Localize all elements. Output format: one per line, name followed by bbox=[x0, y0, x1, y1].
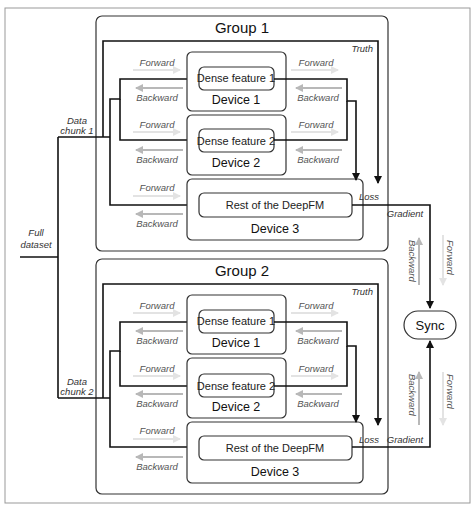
full-dataset-label-1: Full bbox=[28, 227, 44, 238]
data-chunk-2-label-2: chunk 2 bbox=[60, 386, 94, 397]
forward-label-g1-d2-right: Forward bbox=[299, 119, 335, 130]
loss-label-g2: Loss bbox=[359, 434, 379, 445]
sync-node: Sync bbox=[404, 311, 456, 339]
sync-forward-label-top: Forward bbox=[445, 240, 456, 276]
forward-label-g2-d3-left: Forward bbox=[140, 425, 176, 436]
truth-label-g2: Truth bbox=[352, 286, 373, 297]
backward-label-g2-d3-left: Backward bbox=[136, 461, 178, 472]
forward-label-g2-d2-left: Forward bbox=[140, 363, 176, 374]
backward-label-g2-d2-right: Backward bbox=[297, 398, 339, 409]
group-2: Group 2 Data chunk 2 Dense feature 1 Dev… bbox=[58, 259, 430, 494]
device-3-label-g1: Device 3 bbox=[251, 222, 300, 236]
loss-label-g1: Loss bbox=[359, 191, 379, 202]
forward-label-g1-d1-right: Forward bbox=[299, 57, 335, 68]
sync-forward-label-bottom: Forward bbox=[445, 374, 456, 410]
device-2-label-g1: Device 2 bbox=[212, 156, 261, 170]
backward-label-g2-d1-left: Backward bbox=[136, 335, 178, 346]
forward-label-g1-d3-left: Forward bbox=[140, 182, 176, 193]
rest-of-deepfm-label-g1: Rest of the DeepFM bbox=[226, 199, 324, 211]
dense-feature-2-label-g1: Dense feature 2 bbox=[197, 135, 275, 147]
backward-label-g1-d2-right: Backward bbox=[297, 154, 339, 165]
backward-label-g1-d1-right: Backward bbox=[297, 92, 339, 103]
forward-label-g2-d1-left: Forward bbox=[140, 300, 176, 311]
truth-label-g1: Truth bbox=[352, 43, 373, 54]
backward-label-g2-d1-right: Backward bbox=[297, 335, 339, 346]
forward-label-g1-d2-left: Forward bbox=[140, 119, 176, 130]
device-1-label-g2: Device 1 bbox=[212, 336, 261, 350]
device-3-label-g2: Device 3 bbox=[251, 465, 300, 479]
group-2-title: Group 2 bbox=[215, 262, 269, 279]
dense-feature-2-label-g2: Dense feature 2 bbox=[197, 380, 275, 392]
deepfm-data-parallel-diagram: Full dataset Group 1 Data chunk 1 Dense … bbox=[0, 0, 473, 510]
sync-backward-label-bottom: Backward bbox=[407, 374, 418, 416]
device-2-label-g2: Device 2 bbox=[212, 400, 261, 414]
backward-label-g1-d3-left: Backward bbox=[136, 218, 178, 229]
sync-label: Sync bbox=[416, 318, 445, 333]
forward-label-g2-d1-right: Forward bbox=[299, 300, 335, 311]
backward-label-g2-d2-left: Backward bbox=[136, 398, 178, 409]
sync-backward-label-top: Backward bbox=[407, 240, 418, 282]
device-1-label-g1: Device 1 bbox=[212, 93, 261, 107]
group-1-title: Group 1 bbox=[215, 19, 269, 36]
gradient-label-g1: Gradient bbox=[387, 208, 424, 219]
dense-feature-1-label-g2: Dense feature 1 bbox=[197, 315, 275, 327]
data-chunk-1-label-2: chunk 1 bbox=[60, 125, 93, 136]
backward-label-g1-d2-left: Backward bbox=[136, 154, 178, 165]
backward-label-g1-d1-left: Backward bbox=[136, 92, 178, 103]
dense-feature-1-label-g1: Dense feature 1 bbox=[197, 72, 275, 84]
full-dataset-label-2: dataset bbox=[20, 239, 52, 250]
forward-label-g2-d2-right: Forward bbox=[299, 363, 335, 374]
gradient-label-g2: Gradient bbox=[387, 434, 424, 445]
rest-of-deepfm-label-g2: Rest of the DeepFM bbox=[226, 442, 324, 454]
forward-label-g1-d1-left: Forward bbox=[140, 57, 176, 68]
